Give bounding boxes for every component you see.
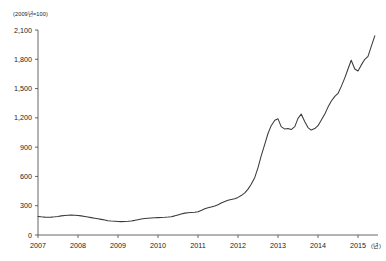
y-tick-label: 300 xyxy=(20,201,32,210)
x-axis-unit-note: (년) xyxy=(371,242,381,249)
x-tick-label: 2014 xyxy=(310,241,326,250)
x-tick-label: 2010 xyxy=(150,241,166,250)
chart-container: (2009년=100) 03006009001,2001,5001,8002,1… xyxy=(0,0,386,261)
x-tick-label: 2013 xyxy=(270,241,286,250)
x-axis-tick-labels: 200720082009201020112012201320142015 xyxy=(30,241,366,250)
x-tick-label: 2011 xyxy=(190,241,205,250)
y-tick-label: 600 xyxy=(20,172,32,181)
line-chart-plot: 03006009001,2001,5001,8002,100 200720082… xyxy=(0,0,386,261)
x-tick-label: 2015 xyxy=(350,241,366,250)
x-tick-label: 2009 xyxy=(110,241,126,250)
y-tick-label: 1,500 xyxy=(14,84,32,93)
y-tick-label: 1,800 xyxy=(14,55,32,64)
index-series-line xyxy=(38,36,375,222)
x-tick-label: 2012 xyxy=(230,241,246,250)
y-tick-label: 0 xyxy=(28,231,32,240)
y-tick-label: 900 xyxy=(20,143,32,152)
y-axis-tick-labels: 03006009001,2001,5001,8002,100 xyxy=(14,26,32,240)
x-tick-label: 2007 xyxy=(30,241,46,250)
x-tick-label: 2008 xyxy=(70,241,86,250)
y-tick-label: 2,100 xyxy=(14,26,32,35)
y-tick-label: 1,200 xyxy=(14,113,32,122)
